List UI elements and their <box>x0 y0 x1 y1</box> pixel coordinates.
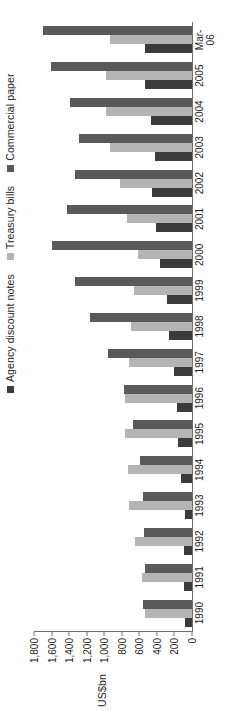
bar <box>75 277 192 286</box>
bar-group <box>34 344 192 380</box>
y-axis-tick-mark <box>69 632 70 636</box>
y-axis-tick-label: 1,600 <box>46 638 57 663</box>
y-axis-tick-label: 0 <box>187 638 198 644</box>
x-axis-tick-label: 2000 <box>194 237 216 273</box>
bar <box>185 510 192 519</box>
x-axis-tick-label: 1996 <box>194 380 216 416</box>
bar <box>106 71 192 80</box>
bar <box>145 44 192 53</box>
plot-area: 02004006008001,0001,2001,4001,6001,800 1… <box>34 22 192 670</box>
bar-groups <box>34 22 192 631</box>
bar <box>135 537 192 546</box>
y-axis-ticks: 02004006008001,0001,2001,4001,6001,800 <box>34 632 192 670</box>
y-axis-tick-mark <box>34 632 35 636</box>
x-axis-line <box>192 22 193 632</box>
bar <box>181 474 192 483</box>
bar <box>144 528 192 537</box>
bar <box>142 573 192 582</box>
y-axis-tick-mark <box>192 632 193 636</box>
bar <box>43 26 192 35</box>
x-axis-tick-label: 1990 <box>194 595 216 631</box>
bar <box>174 367 192 376</box>
bar <box>67 205 192 214</box>
y-axis-line <box>34 631 192 632</box>
bar-group <box>34 129 192 165</box>
bar <box>143 492 192 501</box>
bar-group <box>34 237 192 273</box>
bar-group <box>34 595 192 631</box>
y-axis-tick-label: 600 <box>134 638 145 655</box>
bar <box>184 546 192 555</box>
bar <box>156 223 192 232</box>
x-axis-tick-label: 2001 <box>194 201 216 237</box>
x-axis-tick-label: 1994 <box>194 452 216 488</box>
bar-group <box>34 22 192 58</box>
bar <box>125 394 192 403</box>
bar <box>70 98 192 107</box>
bar-group <box>34 380 192 416</box>
legend-item-treasury-bills: Treasury bills <box>4 186 16 260</box>
bar <box>127 214 192 223</box>
bar <box>133 420 192 429</box>
bar <box>106 107 192 116</box>
legend-label-commercial-paper: Commercial paper <box>4 73 16 160</box>
legend-item-commercial-paper: Commercial paper <box>4 73 16 171</box>
y-axis-tick-label: 400 <box>151 638 162 655</box>
y-axis-tick-label: 1,800 <box>29 638 40 663</box>
x-axis-tick-label: 1993 <box>194 488 216 524</box>
bar <box>131 322 192 331</box>
chart-canvas: Agency discount notes Treasury bills Com… <box>0 0 225 711</box>
bar-group <box>34 488 192 524</box>
bar <box>177 403 192 412</box>
bar <box>185 618 192 627</box>
x-axis-tick-label: 1991 <box>194 559 216 595</box>
bar <box>51 62 192 71</box>
bar-group <box>34 58 192 94</box>
bar <box>79 134 192 143</box>
legend-item-agency-discount-notes: Agency discount notes <box>4 274 16 393</box>
y-axis-tick-mark <box>174 632 175 636</box>
x-axis-labels: 1990199119921993199419951996199719981999… <box>194 22 216 631</box>
bar-group <box>34 559 192 595</box>
bar <box>155 152 192 161</box>
bar <box>110 35 193 44</box>
bar-group <box>34 524 192 560</box>
bar-group <box>34 273 192 309</box>
y-axis-tick-label: 200 <box>169 638 180 655</box>
bar <box>138 250 192 259</box>
y-axis-tick-label: 1,400 <box>64 638 75 663</box>
bar <box>90 313 192 322</box>
bar-group <box>34 165 192 201</box>
y-axis-tick-mark <box>86 632 87 636</box>
legend-swatch-agency-discount-notes <box>7 386 14 393</box>
legend-swatch-treasury-bills <box>7 253 14 260</box>
y-axis-tick-mark <box>139 632 140 636</box>
bar <box>167 295 192 304</box>
y-axis-tick-label: 800 <box>116 638 127 655</box>
bar-group <box>34 94 192 130</box>
bar <box>128 465 192 474</box>
bar <box>140 456 192 465</box>
x-axis-tick-label: 2004 <box>194 94 216 130</box>
y-axis-tick-mark <box>156 632 157 636</box>
bar <box>178 438 192 447</box>
bar <box>184 582 192 591</box>
bar <box>75 170 192 179</box>
y-axis-tick-label: 1,000 <box>99 638 110 663</box>
chart-legend: Agency discount notes Treasury bills Com… <box>4 73 16 393</box>
bar-group <box>34 201 192 237</box>
bar <box>160 259 192 268</box>
y-axis-tick-mark <box>121 632 122 636</box>
x-axis-tick-label: 1999 <box>194 273 216 309</box>
x-axis-tick-label: 1992 <box>194 524 216 560</box>
legend-label-agency-discount-notes: Agency discount notes <box>4 274 16 382</box>
bar <box>124 385 192 394</box>
bar <box>151 116 192 125</box>
chart-area: Agency discount notes Treasury bills Com… <box>0 0 225 711</box>
bar <box>143 600 192 609</box>
bar <box>129 501 192 510</box>
bar <box>145 609 192 618</box>
bar <box>152 188 192 197</box>
x-axis-tick-label: 2002 <box>194 165 216 201</box>
y-axis-title: US$bn <box>96 674 108 707</box>
